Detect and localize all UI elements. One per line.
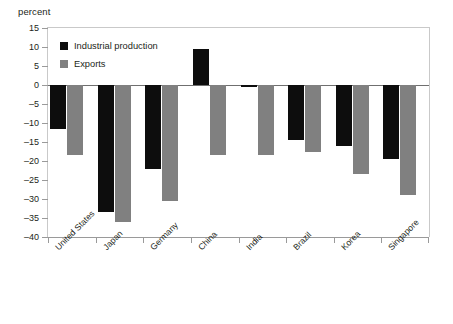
y-axis-label: –40	[24, 233, 39, 242]
bar-group	[334, 28, 382, 237]
y-axis-label: –30	[24, 195, 39, 204]
bar	[241, 85, 257, 87]
y-axis-label: –25	[24, 176, 39, 185]
legend-swatch-icon	[60, 42, 68, 50]
bar	[50, 85, 66, 129]
y-axis-label: 0	[34, 81, 39, 90]
bar	[162, 85, 178, 201]
bar	[336, 85, 352, 146]
bar	[353, 85, 369, 174]
x-axis-line	[48, 237, 429, 238]
bar	[193, 49, 209, 85]
bar	[115, 85, 131, 222]
y-axis-label: –35	[24, 214, 39, 223]
y-axis-label: 15	[29, 24, 39, 33]
y-axis-label: 10	[29, 43, 39, 52]
legend: Industrial production Exports	[60, 38, 158, 74]
bar	[258, 85, 274, 155]
bar-group	[239, 28, 287, 237]
bar	[210, 85, 226, 155]
y-axis-label: –15	[24, 138, 39, 147]
legend-item-industrial-production: Industrial production	[60, 38, 158, 53]
y-axis-label: –10	[24, 119, 39, 128]
y-axis-title: percent	[18, 6, 50, 17]
bar	[145, 85, 161, 169]
y-axis-label: 5	[34, 62, 39, 71]
bar-group	[286, 28, 334, 237]
legend-swatch-icon	[60, 60, 68, 68]
legend-label: Industrial production	[74, 41, 158, 51]
bar	[98, 85, 114, 212]
bar	[383, 85, 399, 159]
bar-group	[381, 28, 429, 237]
bar	[305, 85, 321, 152]
bar-group	[191, 28, 239, 237]
y-axis-label: –5	[29, 100, 39, 109]
bar	[67, 85, 83, 155]
legend-item-exports: Exports	[60, 56, 158, 71]
bar-chart: percent 151050–5–10–15–20–25–30–35–40 In…	[0, 0, 453, 324]
y-axis-label: –20	[24, 157, 39, 166]
bar	[288, 85, 304, 140]
legend-label: Exports	[74, 59, 106, 69]
bar	[400, 85, 416, 195]
